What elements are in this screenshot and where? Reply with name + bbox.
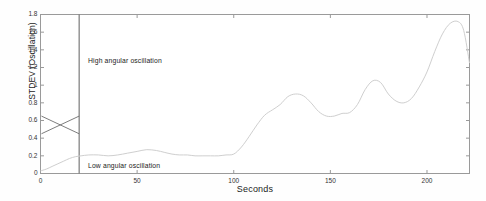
x-axis-label: Seconds — [40, 184, 470, 194]
chart-root: STDEV (Oscillation) 00.20.40.60.811.21.4… — [0, 0, 486, 201]
x-tick-labels: 050100150200 — [0, 0, 486, 201]
annotation-low-oscillation: Low angular oscillation — [88, 162, 160, 169]
annotation-high-oscillation: High angular oscillation — [88, 57, 162, 64]
